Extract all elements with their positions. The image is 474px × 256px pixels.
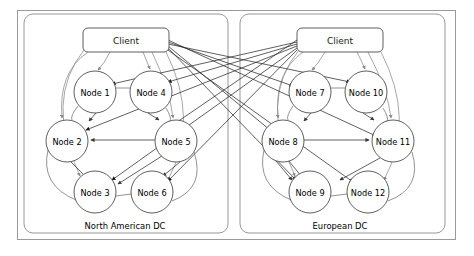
node-label: Node 9 <box>295 188 324 198</box>
client-node-na[interactable]: Client <box>83 28 169 52</box>
node-n6[interactable]: Node 6 <box>131 171 173 213</box>
node-n8[interactable]: Node 8 <box>262 120 304 162</box>
client-label-na: Client <box>113 36 140 46</box>
node-n2[interactable]: Node 2 <box>46 120 88 162</box>
node-label: Node 2 <box>52 137 81 147</box>
node-n9[interactable]: Node 9 <box>289 171 331 213</box>
node-label: Node 4 <box>136 88 165 98</box>
node-label: Node 5 <box>161 137 190 147</box>
client-na-local-edges <box>62 50 184 180</box>
dc-label-north-american: North American DC <box>85 221 166 231</box>
node-label: Node 1 <box>80 88 109 98</box>
node-label: Node 3 <box>80 188 109 198</box>
node-label: Node 11 <box>376 137 410 147</box>
node-n1[interactable]: Node 1 <box>74 71 116 113</box>
node-n5[interactable]: Node 5 <box>155 120 197 162</box>
node-n10[interactable]: Node 10 <box>345 71 387 113</box>
node-n12[interactable]: Node 12 <box>347 171 389 213</box>
nodes-north-american: Node 1 Node 4 Node 2 Node 5 Node 3 Node … <box>46 71 197 213</box>
client-label-eu: Client <box>327 36 354 46</box>
client-na-remote-edges <box>168 40 376 182</box>
node-n11[interactable]: Node 11 <box>372 120 414 162</box>
diagram-root: Client Client Node 1 Node 4 Node 2 Node … <box>0 0 474 256</box>
nodes-european: Node 7 Node 10 Node 8 Node 11 Node 9 Nod… <box>262 71 414 213</box>
node-n7[interactable]: Node 7 <box>289 71 331 113</box>
node-label: Node 7 <box>295 88 324 98</box>
node-label: Node 8 <box>268 137 297 147</box>
client-eu-remote-edges <box>86 40 297 181</box>
node-n4[interactable]: Node 4 <box>130 71 172 113</box>
dc-label-european: European DC <box>313 221 368 231</box>
client-eu-local-edges <box>277 50 399 180</box>
client-node-eu[interactable]: Client <box>297 28 383 52</box>
node-label: Node 6 <box>137 188 166 198</box>
node-label: Node 12 <box>351 188 385 198</box>
node-n3[interactable]: Node 3 <box>74 171 116 213</box>
node-label: Node 10 <box>349 88 383 98</box>
topology-diagram: Client Client Node 1 Node 4 Node 2 Node … <box>0 0 474 256</box>
